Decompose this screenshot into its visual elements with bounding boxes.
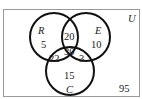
region-r-c: 22 — [49, 53, 60, 64]
region-r-only: 5 — [41, 39, 46, 50]
universe-label: U — [128, 13, 137, 24]
region-c-only: 15 — [64, 70, 75, 81]
region-e-c: 3 — [79, 53, 84, 64]
set-e-label: E — [94, 25, 102, 36]
set-r-label: R — [37, 25, 45, 36]
region-r-e: 20 — [64, 31, 75, 42]
region-r-e-c: 30 — [64, 46, 75, 57]
region-e-only: 10 — [91, 39, 102, 50]
set-c-label: C — [66, 84, 74, 95]
venn-diagram: U R E C 5 10 15 20 30 22 3 95 — [0, 0, 142, 99]
region-outside: 95 — [119, 83, 130, 94]
